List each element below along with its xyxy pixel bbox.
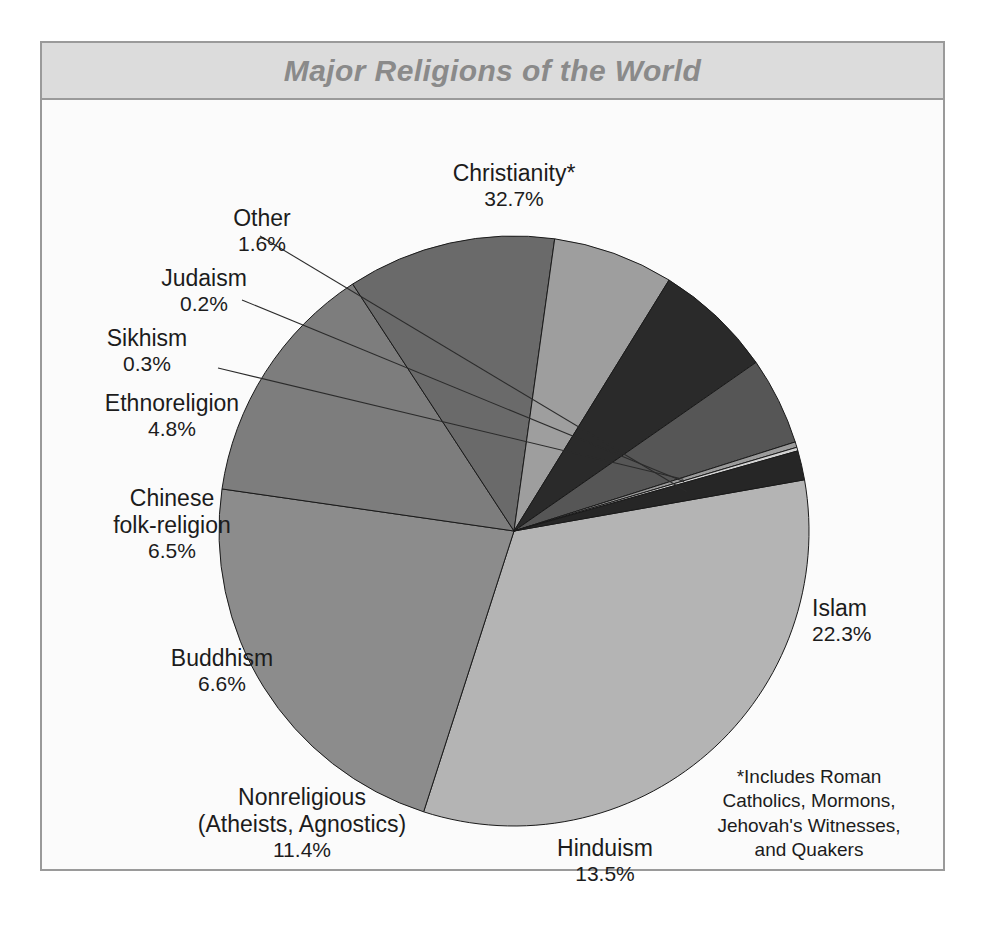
slice-label-chinese-line1: Chinese — [72, 485, 272, 512]
slice-label-buddhism-pct: 6.6% — [132, 672, 312, 697]
slice-label-other: Other 1.6% — [182, 205, 342, 257]
slice-label-chinese-pct: 6.5% — [72, 539, 272, 564]
slice-label-chinese-line2: folk-religion — [72, 512, 272, 539]
slice-label-buddhism: Buddhism 6.6% — [132, 645, 312, 697]
slice-label-christianity: Christianity* 32.7% — [414, 160, 614, 212]
slice-label-sikhism-name: Sikhism — [62, 325, 232, 352]
slice-label-nonreligious: Nonreligious (Atheists, Agnostics) 11.4% — [157, 784, 447, 863]
chart-plot-area: Christianity* 32.7% Islam 22.3% Hinduism… — [42, 100, 943, 869]
slice-label-nonreligious-pct: 11.4% — [157, 838, 447, 863]
chart-footnote: *Includes Roman Catholics, Mormons, Jeho… — [694, 765, 924, 862]
slice-label-sikhism-pct: 0.3% — [62, 352, 232, 377]
slice-label-hinduism: Hinduism 13.5% — [520, 835, 690, 887]
slice-label-judaism: Judaism 0.2% — [114, 265, 294, 317]
footnote-line-1: *Includes Roman — [694, 765, 924, 789]
slice-label-islam-pct: 22.3% — [812, 622, 952, 647]
slice-label-christianity-name: Christianity* — [414, 160, 614, 187]
pie-slices — [219, 236, 809, 826]
slice-label-judaism-name: Judaism — [114, 265, 294, 292]
page-title: Major Religions of the World — [284, 54, 701, 88]
slice-label-chinese-folk-religion: Chinese folk-religion 6.5% — [72, 485, 272, 564]
slice-label-other-pct: 1.6% — [182, 232, 342, 257]
slice-label-other-name: Other — [182, 205, 342, 232]
footnote-line-4: and Quakers — [694, 838, 924, 862]
slice-label-ethnoreligion-pct: 4.8% — [62, 417, 282, 442]
slice-label-ethnoreligion: Ethnoreligion 4.8% — [62, 390, 282, 442]
slice-label-nonreligious-line2: (Atheists, Agnostics) — [157, 811, 447, 838]
footnote-line-3: Jehovah's Witnesses, — [694, 814, 924, 838]
slice-label-hinduism-name: Hinduism — [520, 835, 690, 862]
slice-label-judaism-pct: 0.2% — [114, 292, 294, 317]
slice-label-nonreligious-line1: Nonreligious — [157, 784, 447, 811]
slice-label-islam: Islam 22.3% — [812, 595, 952, 647]
slice-label-ethnoreligion-name: Ethnoreligion — [62, 390, 282, 417]
slice-label-buddhism-name: Buddhism — [132, 645, 312, 672]
footnote-line-2: Catholics, Mormons, — [694, 789, 924, 813]
chart-header-band: Major Religions of the World — [42, 43, 943, 100]
slice-label-christianity-pct: 32.7% — [414, 187, 614, 212]
slice-label-islam-name: Islam — [812, 595, 952, 622]
slice-label-sikhism: Sikhism 0.3% — [62, 325, 232, 377]
slice-label-hinduism-pct: 13.5% — [520, 862, 690, 887]
chart-figure: Major Religions of the World Christianit… — [40, 41, 945, 871]
